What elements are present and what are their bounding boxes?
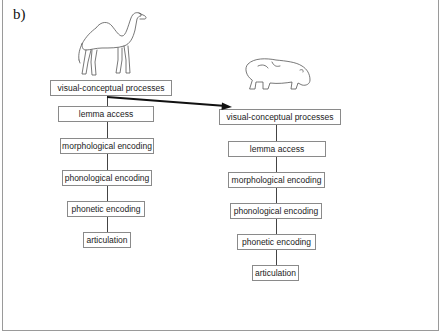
arrow-icon (0, 0, 444, 336)
